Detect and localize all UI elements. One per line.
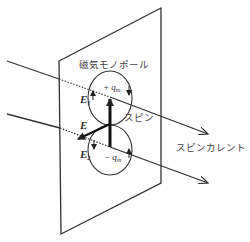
- E1-sub: 1: [87, 99, 90, 106]
- spin-label: スピン: [124, 112, 154, 123]
- E2-sub: 2: [86, 154, 91, 161]
- minus-qm-label: − qm: [104, 152, 122, 163]
- plus-sign: +: [103, 82, 109, 92]
- E2-letter: E: [79, 148, 87, 160]
- monopole-label: 磁気モノポール: [79, 59, 149, 70]
- minus-q-sub: m: [117, 156, 122, 163]
- E1-label: E1: [79, 93, 91, 106]
- E-label: E: [79, 119, 87, 131]
- E2-label: E2: [79, 148, 91, 161]
- plus-qm-label: + qm: [103, 82, 121, 93]
- upper-line-incoming: [7, 61, 59, 79]
- plus-q-sub: m: [116, 86, 121, 93]
- spin-current-label: スピンカレント: [176, 142, 246, 153]
- E1-letter: E: [79, 93, 87, 105]
- spin-current-monopole-diagram: 磁気モノポール スピン スピンカレント + qm − qm E1 E E2: [0, 0, 250, 242]
- lower-line-incoming: [7, 114, 60, 128]
- minus-sign: −: [104, 152, 110, 162]
